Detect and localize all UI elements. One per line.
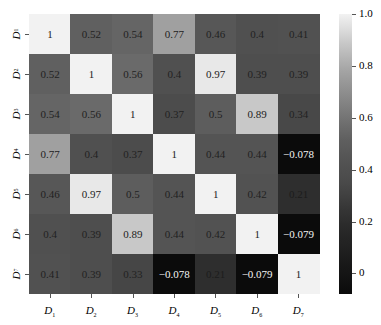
- x-tick-mark: [257, 294, 258, 298]
- y-tick-label: D3: [8, 104, 24, 124]
- x-tick-mark: [133, 294, 134, 298]
- heatmap-cell: 0.39: [70, 254, 112, 294]
- x-tick-mark: [91, 294, 92, 298]
- heatmap-cell: 0.52: [70, 14, 112, 54]
- colorbar-tick-mark: [352, 14, 356, 15]
- heatmap-cell: 1: [29, 14, 71, 54]
- y-tick-label: D2: [8, 64, 24, 84]
- heatmap-cell: 0.52: [29, 54, 71, 94]
- heatmap-cell: 0.33: [112, 254, 154, 294]
- heatmap-cell: 0.56: [112, 54, 154, 94]
- x-tick-label: D1: [35, 304, 65, 318]
- x-tick-label: D4: [159, 304, 189, 318]
- y-tick-mark: [25, 274, 29, 275]
- heatmap-cell: 0.21: [195, 254, 237, 294]
- heatmap-cell: 0.4: [70, 134, 112, 174]
- heatmap-cell: 0.44: [153, 214, 195, 254]
- heatmap-cell: 0.56: [70, 94, 112, 134]
- x-tick-label: D2: [76, 304, 106, 318]
- heatmap-cell: 0.54: [112, 14, 154, 54]
- colorbar-tick-label: 0: [359, 267, 365, 278]
- heatmap-cell: 0.46: [29, 174, 71, 214]
- heatmap-cell: 0.44: [236, 134, 278, 174]
- heatmap-cell: 0.44: [153, 174, 195, 214]
- heatmap-cell: 0.21: [278, 174, 320, 214]
- heatmap-cell: −0.079: [236, 254, 278, 294]
- heatmap-cell: 0.77: [29, 134, 71, 174]
- colorbar-tick-label: 1.0: [359, 8, 373, 19]
- x-tick-mark: [298, 294, 299, 298]
- colorbar-tick-label: 0.2: [359, 216, 373, 227]
- colorbar: [339, 14, 352, 294]
- x-tick-label: D6: [242, 304, 272, 318]
- heatmap-cell: 0.44: [195, 134, 237, 174]
- heatmap-cell: 1: [236, 214, 278, 254]
- heatmap-cell: 0.89: [236, 94, 278, 134]
- heatmap-cell: 0.54: [29, 94, 71, 134]
- heatmap-cell: 0.89: [112, 214, 154, 254]
- colorbar-tick-mark: [352, 273, 356, 274]
- heatmap-cell: 1: [70, 54, 112, 94]
- heatmap-cell: 0.42: [195, 214, 237, 254]
- heatmap-cell: 1: [153, 134, 195, 174]
- heatmap-cell: 0.5: [112, 174, 154, 214]
- heatmap-cell: 0.37: [112, 134, 154, 174]
- heatmap-cell: 0.97: [70, 174, 112, 214]
- heatmap-cell: 0.4: [236, 14, 278, 54]
- colorbar-tick-mark: [352, 170, 356, 171]
- y-tick-label: D1: [8, 24, 24, 44]
- heatmap-cell: 1: [278, 254, 320, 294]
- heatmap-cell: 0.77: [153, 14, 195, 54]
- y-tick-mark: [25, 34, 29, 35]
- heatmap-cell: 0.4: [153, 54, 195, 94]
- y-tick-mark: [25, 194, 29, 195]
- heatmap-cell: 0.39: [236, 54, 278, 94]
- heatmap-cell: 0.46: [195, 14, 237, 54]
- heatmap-cell: 0.41: [29, 254, 71, 294]
- heatmap-cell: −0.078: [153, 254, 195, 294]
- colorbar-tick-label: 0.6: [359, 112, 373, 123]
- x-tick-mark: [215, 294, 216, 298]
- x-tick-label: D3: [118, 304, 148, 318]
- heatmap-cell: 0.97: [195, 54, 237, 94]
- colorbar-tick-label: 0.8: [359, 60, 373, 71]
- heatmap-cell: 0.5: [195, 94, 237, 134]
- colorbar-tick-mark: [352, 66, 356, 67]
- y-tick-label: D4: [8, 144, 24, 164]
- heatmap-grid: 10.520.540.770.460.40.410.5210.560.40.97…: [29, 14, 319, 294]
- x-tick-label: D7: [283, 304, 313, 318]
- y-tick-label: D5: [8, 184, 24, 204]
- y-tick-label: D6: [8, 224, 24, 244]
- colorbar-tick-mark: [352, 118, 356, 119]
- y-tick-mark: [25, 154, 29, 155]
- heatmap-cell: 0.37: [153, 94, 195, 134]
- y-tick-mark: [25, 234, 29, 235]
- y-tick-mark: [25, 74, 29, 75]
- heatmap-cell: −0.078: [278, 134, 320, 174]
- heatmap-cell: −0.079: [278, 214, 320, 254]
- y-tick-mark: [25, 114, 29, 115]
- heatmap-cell: 0.4: [29, 214, 71, 254]
- heatmap-cell: 1: [112, 94, 154, 134]
- heatmap-cell: 0.39: [70, 214, 112, 254]
- heatmap-cell: 0.41: [278, 14, 320, 54]
- colorbar-tick-label: 0.4: [359, 164, 373, 175]
- x-tick-label: D5: [200, 304, 230, 318]
- heatmap-cell: 0.39: [278, 54, 320, 94]
- x-tick-mark: [50, 294, 51, 298]
- heatmap-cell: 0.34: [278, 94, 320, 134]
- heatmap-cell: 0.42: [236, 174, 278, 214]
- heatmap-cell: 1: [195, 174, 237, 214]
- y-tick-label: D7: [8, 264, 24, 284]
- x-tick-mark: [174, 294, 175, 298]
- colorbar-tick-mark: [352, 222, 356, 223]
